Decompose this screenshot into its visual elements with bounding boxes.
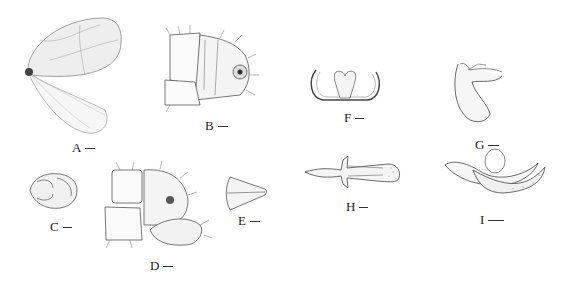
label-c-text: C	[50, 219, 59, 235]
label-f: F	[344, 110, 364, 126]
label-a-text: A	[72, 140, 81, 156]
scale-bar-e	[250, 221, 260, 222]
label-i: I	[480, 212, 504, 228]
figure-g-structure	[450, 62, 510, 132]
label-g-text: G	[475, 137, 484, 153]
label-d: D	[150, 258, 173, 274]
label-a: A	[72, 140, 95, 156]
figure-a-wings	[0, 0, 130, 145]
label-e: E	[238, 213, 260, 229]
label-h-text: H	[346, 199, 355, 215]
figure-b-terminalia	[160, 30, 270, 110]
figure-c-head	[25, 170, 85, 215]
scale-bar-c	[63, 227, 72, 228]
label-g: G	[475, 137, 499, 153]
scale-bar-a	[85, 148, 95, 149]
label-c: C	[50, 219, 72, 235]
label-d-text: D	[150, 258, 159, 274]
label-b-text: B	[205, 118, 214, 134]
label-b: B	[205, 118, 228, 134]
label-h: H	[346, 199, 368, 215]
figure-e-cone	[225, 175, 270, 215]
figure-h-phallus-dorsal	[303, 150, 403, 195]
scale-bar-b	[218, 126, 228, 127]
scale-bar-i	[488, 220, 504, 221]
label-e-text: E	[238, 213, 246, 229]
figure-d-terminalia	[100, 170, 220, 250]
scale-bar-d	[163, 266, 173, 267]
label-i-text: I	[480, 212, 484, 228]
label-f-text: F	[344, 110, 351, 126]
scale-bar-h	[359, 207, 368, 208]
scale-bar-g	[488, 145, 499, 146]
figure-i-phallus-lateral	[443, 155, 548, 200]
figure-f-sclerite	[308, 70, 383, 105]
scale-bar-f	[355, 118, 364, 119]
